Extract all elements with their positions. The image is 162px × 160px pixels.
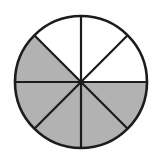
fraction-circle-diagram [0,0,162,160]
fraction-circle-figure [0,0,162,160]
